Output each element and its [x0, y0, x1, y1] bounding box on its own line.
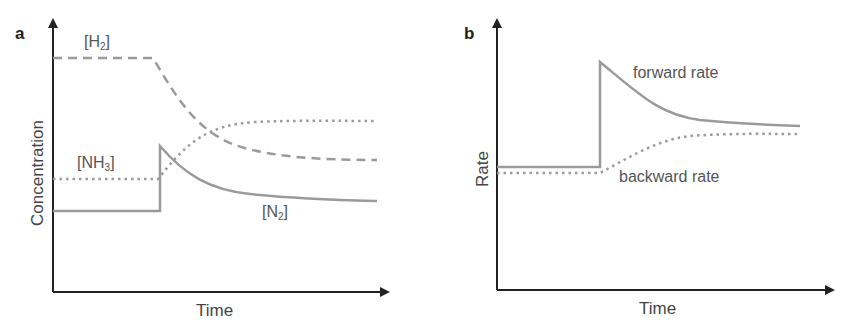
- h2-label: [H2]: [84, 34, 110, 52]
- panel-a-y-label: Concentration: [28, 120, 48, 226]
- panel-a-x-label: Time: [196, 301, 233, 321]
- panel-b-axes: [497, 20, 833, 290]
- panel-b-x-label: Time: [639, 299, 676, 319]
- backward-rate-label: backward rate: [619, 169, 720, 185]
- panel-b-y-label: Rate: [473, 151, 493, 187]
- diagram-canvas: [0, 0, 849, 328]
- nh3-label: [NH3]: [77, 155, 115, 173]
- n2-label: [N2]: [262, 204, 288, 222]
- panel-a-letter: a: [15, 24, 24, 44]
- forward-rate-label: forward rate: [633, 65, 718, 81]
- h2-curve: [53, 58, 377, 160]
- panel-b-letter: b: [464, 24, 474, 44]
